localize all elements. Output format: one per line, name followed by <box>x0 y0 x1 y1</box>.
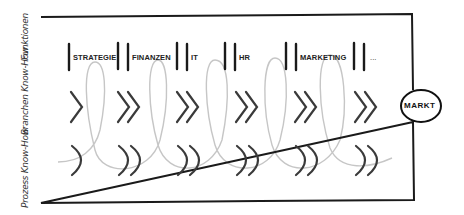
function-it: IT <box>191 53 198 62</box>
function-marketing: MARKETING <box>300 53 346 62</box>
market-label: MARKT <box>404 101 435 110</box>
industry-chevrons <box>71 92 376 122</box>
function-hr: HR <box>239 53 250 62</box>
row-label-industry: Branchen Know-How <box>20 47 30 135</box>
function-strategy: STRATEGIE <box>73 53 116 62</box>
process-coil-curve <box>58 55 392 169</box>
function-finance: FINANZEN <box>132 53 171 62</box>
function-more: ... <box>370 53 377 62</box>
diagram-canvas <box>0 0 464 215</box>
row-label-process: Prozess Know-How <box>20 128 30 208</box>
